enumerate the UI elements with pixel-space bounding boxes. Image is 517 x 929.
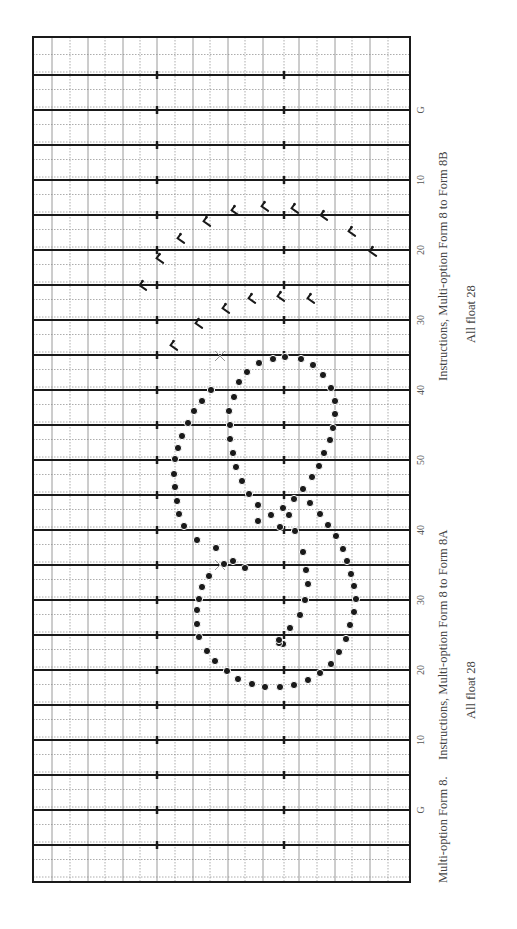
footstep-marker-icon — [221, 302, 232, 313]
footstep-marker-icon — [290, 202, 301, 213]
performer-dot — [232, 463, 239, 470]
performer-dot — [230, 393, 237, 400]
performer-dot — [309, 361, 316, 368]
performer-dot — [350, 608, 357, 615]
performer-dot — [190, 407, 197, 414]
footstep-marker-icon — [230, 204, 241, 215]
performer-dot — [302, 566, 309, 573]
performer-dot — [193, 606, 200, 613]
performer-dot — [254, 517, 261, 524]
performer-dot — [211, 657, 218, 664]
form8b-instructions: Instructions, Multi-option Form 8 to For… — [436, 151, 451, 381]
footstep-marker-icon — [202, 215, 213, 226]
performer-dot — [308, 473, 315, 480]
performer-dot — [225, 407, 232, 414]
performer-dot — [220, 560, 227, 567]
performer-dot — [347, 570, 354, 577]
performer-dot — [299, 485, 306, 492]
performer-dot — [261, 683, 268, 690]
yard-line-label: 40 — [415, 385, 426, 395]
performer-dot — [229, 557, 236, 564]
performer-dot — [290, 495, 297, 502]
performer-dot — [319, 371, 326, 378]
footstep-marker-icon — [247, 292, 258, 303]
form8b-float: All float 28 — [464, 285, 479, 343]
performer-dot — [304, 580, 311, 587]
performer-dot — [207, 386, 214, 393]
form8a-instructions: Instructions, Multi-option Form 8 to For… — [436, 530, 451, 760]
performer-dot — [226, 421, 233, 428]
yard-line-label: 30 — [415, 315, 426, 325]
performer-dot — [332, 532, 339, 539]
performer-dot — [352, 595, 359, 602]
performer-dot — [315, 462, 322, 469]
performer-dot — [339, 545, 346, 552]
footstep-marker-icon — [194, 317, 205, 328]
performer-dot — [275, 636, 282, 643]
performer-dot — [304, 676, 311, 683]
performer-dot — [198, 583, 205, 590]
performer-dot — [331, 410, 338, 417]
direction-markers — [138, 200, 379, 570]
performer-dot — [205, 572, 212, 579]
performer-dot — [306, 499, 313, 506]
performer-dot — [203, 647, 210, 654]
performer-dot — [290, 681, 297, 688]
performer-dot — [173, 497, 180, 504]
performer-dot — [195, 633, 202, 640]
performer-dot — [296, 611, 303, 618]
performer-dots — [170, 353, 359, 690]
performer-dot — [316, 510, 323, 517]
performer-dot — [281, 353, 288, 360]
yard-line-label: G — [415, 106, 426, 113]
performer-dot — [229, 449, 236, 456]
performer-dot — [327, 660, 334, 667]
performer-dot — [342, 635, 349, 642]
performer-dot — [267, 511, 274, 518]
yard-line-label: 30 — [415, 595, 426, 605]
yard-line-label: G — [415, 806, 426, 813]
performer-dot — [326, 436, 333, 443]
performer-dot — [171, 483, 178, 490]
performer-dot — [286, 624, 293, 631]
yard-line-label: 20 — [415, 245, 426, 255]
performer-dot — [299, 548, 306, 555]
performer-dot — [170, 470, 177, 477]
footstep-marker-icon — [176, 232, 187, 243]
performer-dot — [193, 620, 200, 627]
performer-dot — [235, 378, 242, 385]
performer-dot — [184, 419, 191, 426]
performer-dot — [180, 522, 187, 529]
yard-line-label: 10 — [415, 175, 426, 185]
form8a-float: All float 28 — [464, 661, 479, 719]
performer-dot — [316, 669, 323, 676]
performer-dot — [324, 521, 331, 528]
yard-line-label: 40 — [415, 525, 426, 535]
performer-dot — [346, 621, 353, 628]
performer-dot — [276, 683, 283, 690]
performer-dot — [285, 511, 292, 518]
performer-dot — [238, 477, 245, 484]
performer-dot — [195, 595, 202, 602]
performer-dot — [350, 582, 357, 589]
performer-dot — [178, 432, 185, 439]
performer-dot — [343, 557, 350, 564]
performer-dot — [226, 435, 233, 442]
yard-line-label: 20 — [415, 665, 426, 675]
performer-dot — [234, 675, 241, 682]
performer-dot — [335, 648, 342, 655]
performer-dot — [175, 510, 182, 517]
performer-dot — [327, 384, 334, 391]
footstep-marker-icon — [306, 292, 317, 303]
performer-dot — [193, 536, 200, 543]
performer-dot — [198, 397, 205, 404]
performer-dot — [212, 544, 219, 551]
performer-dot — [320, 449, 327, 456]
footstep-marker-icon — [347, 225, 358, 236]
performer-dot — [254, 501, 261, 508]
performer-dot — [297, 355, 304, 362]
performer-dot — [276, 523, 283, 530]
performer-dot — [329, 424, 336, 431]
form8-title: Multi-option Form 8. — [436, 776, 451, 883]
performer-dot — [301, 596, 308, 603]
